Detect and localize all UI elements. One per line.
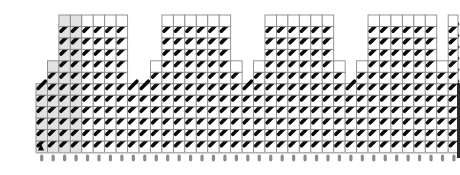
needle-pin-icon	[258, 154, 261, 161]
grid-cell	[437, 61, 448, 72]
grid-cell	[162, 15, 173, 26]
grid-cell	[322, 15, 333, 26]
grid-cell	[59, 15, 70, 26]
needle-pin-icon	[63, 154, 66, 161]
grid-cell	[116, 15, 127, 26]
needle-pin-icon	[74, 154, 77, 161]
needle-pin-icon	[269, 154, 272, 161]
grid-cell	[288, 15, 299, 26]
baseline	[36, 152, 458, 153]
needle-pin-icon	[212, 154, 215, 161]
needle-pin-icon	[143, 154, 146, 161]
grid-cell	[47, 61, 58, 72]
grid-cell	[276, 15, 287, 26]
grid-cell	[357, 61, 368, 72]
needle-pin-icon	[86, 154, 89, 161]
needle-pin-icon	[349, 154, 352, 161]
needle-pin-icon	[178, 154, 181, 161]
grid-cell	[105, 15, 116, 26]
grid-cell	[311, 15, 322, 26]
grid-cell	[425, 15, 436, 26]
needle-pin-icon	[326, 154, 329, 161]
needle-pin-icon	[166, 154, 169, 161]
needle-pin-icon	[441, 154, 444, 161]
needle-pin-icon	[200, 154, 203, 161]
needle-pin-icon	[452, 154, 455, 161]
grid-cell	[334, 61, 345, 72]
grid-cell	[70, 15, 81, 26]
grid-cell	[151, 61, 162, 72]
grid-cell	[219, 15, 230, 26]
grid-cell	[368, 15, 379, 26]
needle-pin-icon	[189, 154, 192, 161]
grid-cell	[93, 15, 104, 26]
needle-pin-icon	[40, 154, 43, 161]
grid-cell	[185, 15, 196, 26]
needle-pin-icon	[155, 154, 158, 161]
grid-cell	[414, 15, 425, 26]
grid-cell	[173, 15, 184, 26]
needle-pin-icon	[418, 154, 421, 161]
needle-pin-icon	[109, 154, 112, 161]
needle-pin-icon	[281, 154, 284, 161]
needle-pin-icon	[292, 154, 295, 161]
needle-pin-icon	[361, 154, 364, 161]
needle-pin-icon	[384, 154, 387, 161]
grid-cell	[82, 15, 93, 26]
grid-cell	[448, 15, 458, 26]
needle-pin-icon	[223, 154, 226, 161]
grid-cell	[254, 61, 265, 72]
needle-pin-icon	[338, 154, 341, 161]
stitch-chart-diagram	[0, 0, 460, 175]
needle-pin-icon	[97, 154, 100, 161]
needle-pin-icon	[407, 154, 410, 161]
needle-pin-icon	[246, 154, 249, 161]
stitch-grid	[0, 0, 460, 175]
needle-pin-icon	[52, 154, 55, 161]
grid-cell	[231, 61, 242, 72]
needle-pin-icon	[395, 154, 398, 161]
grid-cell	[380, 15, 391, 26]
needle-pin-icon	[235, 154, 238, 161]
needle-pin-icon	[132, 154, 135, 161]
grid-cell	[402, 15, 413, 26]
needle-pin-icon	[429, 154, 432, 161]
needle-pin-icon	[372, 154, 375, 161]
grid-cell	[196, 15, 207, 26]
grid-cell	[299, 15, 310, 26]
needle-pin-icon	[315, 154, 318, 161]
needle-pin-icon	[120, 154, 123, 161]
grid-cell	[265, 15, 276, 26]
grid-cell	[208, 15, 219, 26]
needle-pin-icon	[303, 154, 306, 161]
grid-cell	[391, 15, 402, 26]
